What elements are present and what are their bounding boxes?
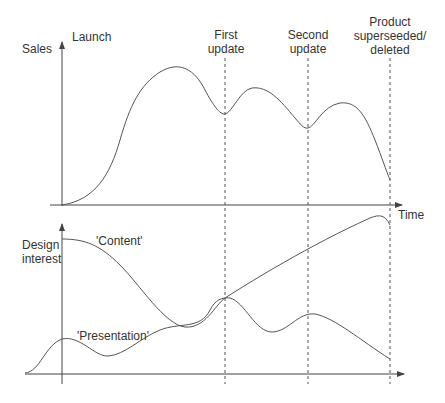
product-line1: Product: [354, 15, 427, 29]
second-update-label: Second update: [288, 28, 329, 56]
diagram-canvas: [0, 0, 445, 403]
launch-label: Launch: [72, 30, 111, 44]
product-line3: deleted: [354, 43, 427, 57]
first-update-line1: First: [208, 28, 245, 42]
design-line2: interest: [22, 252, 61, 266]
presentation-label: 'Presentation': [77, 329, 149, 343]
product-line2: superseeded/: [354, 29, 427, 43]
first-update-line2: update: [208, 42, 245, 56]
sales-axis-label: Sales: [22, 42, 52, 56]
second-update-line2: update: [288, 42, 329, 56]
second-update-line1: Second: [288, 28, 329, 42]
product-deleted-label: Product superseeded/ deleted: [354, 15, 427, 57]
content-curve: [62, 216, 390, 327]
content-label: 'Content': [96, 234, 143, 248]
first-update-label: First update: [208, 28, 245, 56]
design-interest-label: Design interest: [22, 238, 61, 266]
design-line1: Design: [22, 238, 61, 252]
time-axis-label: Time: [398, 208, 424, 222]
sales-curve: [62, 67, 390, 205]
